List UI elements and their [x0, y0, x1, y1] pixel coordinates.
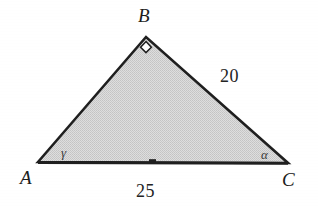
- angle-label-gamma-at-a: γ: [61, 146, 66, 159]
- triangle-shape: [38, 37, 288, 163]
- side-ac-edge: [38, 163, 288, 164]
- side-ac-tick-mark: [149, 159, 156, 162]
- vertex-label-b: B: [138, 6, 150, 25]
- geometry-figure: A B C γ α 20 25: [0, 0, 318, 206]
- side-length-label-bc: 20: [220, 67, 239, 85]
- vertex-label-c: C: [282, 170, 295, 189]
- vertex-label-a: A: [20, 168, 32, 187]
- angle-label-alpha-at-c: α: [261, 148, 268, 161]
- triangle-diagram-svg: [0, 0, 318, 206]
- side-length-label-ac: 25: [136, 182, 155, 200]
